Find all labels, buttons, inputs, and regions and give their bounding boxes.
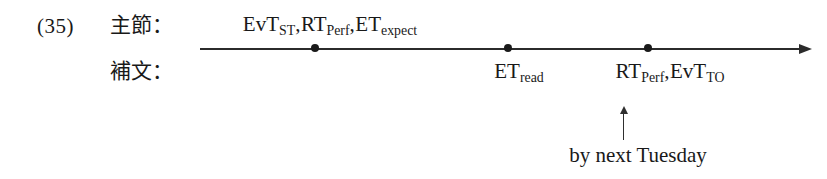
complement-perf-to-events: RTPerf,EvTTO bbox=[616, 59, 725, 83]
complement-read-event: ETread bbox=[494, 59, 544, 83]
time-axis-shaft bbox=[200, 48, 801, 50]
timeline-figure: (35) 主節： 補文： EvTST,RTPerf,ETexpectETread… bbox=[0, 0, 827, 179]
main-clause-events: EvTST,RTPerf,ETexpect bbox=[243, 12, 417, 36]
tick-dot-3 bbox=[644, 44, 652, 52]
annotation-text: by next Tuesday bbox=[569, 142, 707, 168]
up-arrow-icon bbox=[623, 106, 624, 140]
event-base: ET bbox=[355, 12, 381, 36]
event-base: RT bbox=[301, 12, 327, 36]
up-arrow-stem bbox=[623, 112, 624, 140]
event-base: ET bbox=[494, 59, 520, 83]
tick-dot-1 bbox=[311, 44, 319, 52]
row-label-main-clause: 主節： bbox=[110, 12, 173, 38]
event-subscript: ST bbox=[279, 23, 295, 38]
event-subscript: expect bbox=[381, 23, 417, 38]
event-subscript: TO bbox=[706, 70, 724, 85]
event-base: RT bbox=[616, 59, 642, 83]
example-number: (35) bbox=[37, 13, 74, 39]
right-arrowhead-icon bbox=[799, 44, 812, 54]
event-base: EvT bbox=[670, 59, 706, 83]
event-subscript: read bbox=[520, 70, 544, 85]
event-base: EvT bbox=[243, 12, 279, 36]
tick-dot-2 bbox=[504, 44, 512, 52]
row-label-complement-clause: 補文： bbox=[110, 58, 173, 84]
event-subscript: Perf bbox=[641, 70, 664, 85]
event-subscript: Perf bbox=[327, 23, 350, 38]
